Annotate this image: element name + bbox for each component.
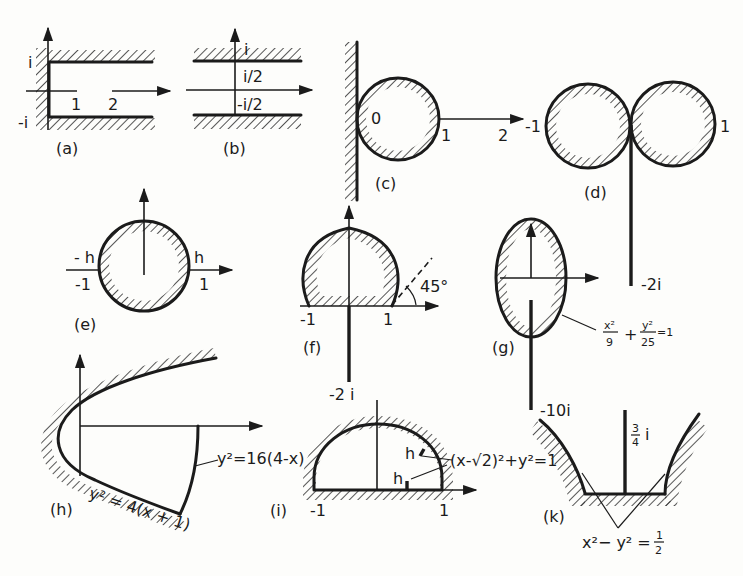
eq-x-squared: x²: [604, 319, 615, 332]
caption-d: (d): [584, 183, 607, 202]
hatch-bottom: [194, 116, 301, 129]
frac-num: 3: [632, 422, 639, 435]
label-minus-1: -1: [525, 117, 541, 136]
complex-domains-figure: i -i 1 2 (a) i i/2 -i/2 (b) 0 1 2 (c): [0, 0, 743, 576]
label-h: h: [194, 248, 204, 267]
panel-b: i i/2 -i/2 (b): [186, 29, 312, 158]
caption-c: (c): [375, 174, 396, 193]
label-minus-1: -1: [310, 501, 326, 520]
hatch-wall-left: [36, 48, 48, 130]
panel-c: 0 1 2 (c): [345, 42, 523, 201]
caption-a: (a): [56, 139, 78, 158]
label-eq: (x-√2)²+y²=1: [450, 451, 557, 470]
hatch-wall: [345, 42, 356, 201]
label-i-half: i/2: [243, 67, 263, 86]
label-i: i: [28, 53, 32, 72]
label-1: 1: [441, 126, 451, 145]
eq-9: 9: [606, 336, 613, 349]
eq-25: 25: [641, 336, 655, 349]
label-minus-1: -1: [300, 310, 316, 329]
label-1: 1: [71, 95, 81, 114]
eq-den: 2: [655, 544, 662, 557]
label-2: 2: [498, 126, 508, 145]
eq-lhs: x²− y² =: [582, 533, 651, 552]
label-minus-i-half: -i/2: [237, 95, 263, 114]
eq-rhs: =1: [657, 326, 673, 339]
panel-g: -10i x² 9 + y² 25 =1 (g): [492, 219, 673, 420]
panel-a: i -i 1 2 (a): [18, 28, 170, 158]
panel-k: 3 4 i x²− y² = 1 2 (k): [530, 410, 708, 557]
panel-e: - h h -1 1 (e): [66, 189, 232, 334]
caption-g: (g): [492, 338, 515, 357]
angle-arc: [406, 286, 416, 305]
label-i: i: [244, 40, 248, 59]
label-2: 2: [108, 95, 118, 114]
caption-k: (k): [543, 507, 565, 526]
panel-h: y²=16(4-x) y² = 4(x + 1) (h): [41, 348, 304, 534]
hatch-strip-bottom: [48, 118, 155, 130]
equation-ellipse: x² 9 + y² 25 =1: [603, 319, 673, 349]
label-inner-eq: y²=16(4-x): [217, 449, 305, 468]
label-0: 0: [371, 109, 381, 128]
caption-b: (b): [223, 139, 246, 158]
frac-den: 4: [632, 436, 639, 449]
eq-y-squared: y²: [642, 319, 653, 332]
label-outer-eq: y² = 4(x + 1): [87, 484, 193, 535]
leader-line: [562, 315, 596, 330]
boundary-inner-parabola: [180, 426, 198, 514]
label-1: 1: [199, 275, 209, 294]
equation-hyperbola: x²− y² = 1 2: [582, 529, 664, 557]
panel-f: 45° -1 1 -2 i (f): [300, 206, 448, 404]
caption-e: (e): [74, 315, 96, 334]
caption-f: (f): [303, 338, 321, 357]
label-minus-h: - h: [74, 248, 95, 267]
label-45deg: 45°: [420, 277, 448, 296]
label-three-quarter-i: 3 4 i: [631, 422, 649, 449]
label-minus-2i: -2i: [641, 275, 661, 294]
caption-h: (h): [50, 500, 73, 519]
label-minus-2i: -2 i: [329, 385, 354, 404]
leader-line: [195, 460, 218, 466]
label-h-lower: h: [393, 469, 403, 488]
label-1: 1: [720, 117, 730, 136]
boundary-strip: [49, 62, 152, 117]
label-h-upper: h: [405, 444, 415, 463]
caption-i: (i): [270, 501, 287, 520]
eq-num: 1: [656, 529, 663, 542]
label-minus-1: -1: [75, 275, 91, 294]
label-i: i: [645, 425, 649, 444]
eq-plus: +: [624, 325, 637, 344]
label-1: 1: [439, 501, 449, 520]
label-minus-10i: -10i: [540, 401, 571, 420]
label-minus-i: -i: [18, 113, 28, 132]
label-1: 1: [383, 310, 393, 329]
hatch-strip-top: [48, 50, 155, 61]
panel-i: h h (x-√2)²+y²=1 -1 1 (i): [270, 400, 557, 520]
hatch-floor: [578, 495, 675, 506]
